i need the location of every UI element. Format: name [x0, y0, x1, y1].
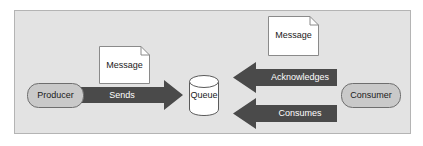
arrow-sends-label: Sends [109, 90, 135, 100]
node-queue-top [190, 76, 219, 88]
node-producer[interactable]: Producer [28, 84, 84, 108]
diagram-panel [15, 11, 411, 134]
diagram-canvas: Sends Acknowledges Consumes Producer Con… [0, 0, 423, 146]
document-message-consumer: Message [269, 17, 319, 56]
document-message-producer-label: Message [106, 60, 143, 70]
document-message-consumer-label: Message [275, 30, 312, 40]
arrow-acknowledges-label: Acknowledges [271, 72, 330, 82]
message-queue-diagram: Sends Acknowledges Consumes Producer Con… [0, 0, 423, 146]
arrow-consumes-label: Consumes [278, 108, 322, 118]
node-queue[interactable]: Queue [190, 76, 219, 116]
node-consumer[interactable]: Consumer [342, 84, 401, 108]
node-queue-label: Queue [190, 90, 217, 100]
node-producer-label: Producer [37, 90, 74, 100]
node-consumer-label: Consumer [350, 90, 392, 100]
document-message-producer: Message [100, 47, 150, 84]
